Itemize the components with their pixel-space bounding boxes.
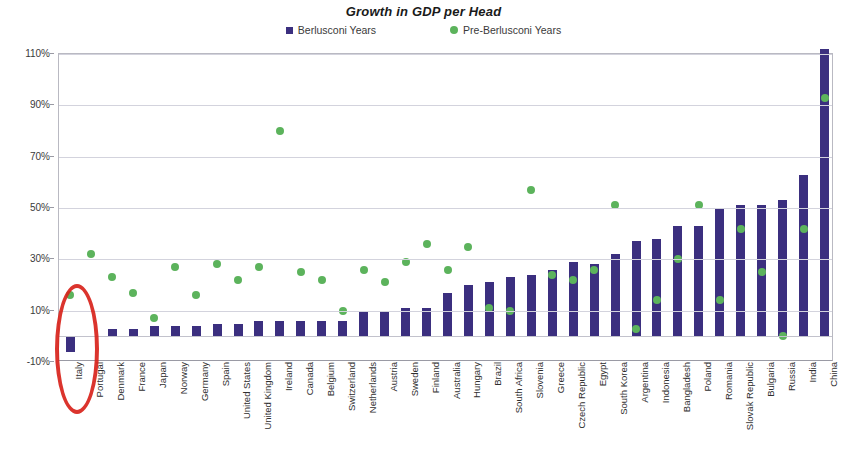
bar-sweden — [401, 308, 410, 336]
dot-austria — [381, 278, 389, 286]
y-axis-tick-label: 110% — [25, 48, 50, 59]
x-axis-label-bangladesh: Bangladesh — [681, 362, 692, 412]
x-axis-label-belgium: Belgium — [325, 362, 336, 396]
y-axis-tick-mark — [50, 104, 54, 105]
y-axis: -10%10%30%50%70%90%110% — [0, 53, 54, 361]
x-axis-label-indonesia: Indonesia — [660, 362, 671, 403]
x-axis-label-poland: Poland — [702, 362, 713, 392]
gridline — [59, 259, 832, 260]
x-axis-label-united-kingdom: United Kingdom — [262, 362, 273, 430]
y-axis-tick-label: 10% — [30, 304, 50, 315]
x-axis-label-norway: Norway — [178, 362, 189, 394]
x-axis-label-brazil: Brazil — [492, 362, 503, 386]
dot-egypt — [590, 266, 598, 274]
x-axis-label-greece: Greece — [555, 362, 566, 393]
x-axis-label-russia: Russia — [786, 362, 797, 391]
bar-austria — [380, 311, 389, 337]
legend-label-pre-berlusconi-years: Pre-Berlusconi Years — [463, 24, 561, 36]
legend-square-marker-icon — [286, 27, 293, 34]
y-axis-tick-label: 50% — [30, 202, 50, 213]
y-axis-tick-mark — [50, 361, 54, 362]
dot-argentina — [632, 325, 640, 333]
zero-baseline — [59, 336, 832, 337]
x-axis-label-argentina: Argentina — [639, 362, 650, 403]
dot-greece — [548, 271, 556, 279]
x-axis-label-germany: Germany — [199, 362, 210, 401]
bar-italy — [66, 336, 75, 351]
dot-hungary — [464, 243, 472, 251]
y-axis-tick-mark — [50, 156, 54, 157]
y-axis-tick-label: 30% — [30, 253, 50, 264]
gridline — [59, 311, 832, 312]
y-axis-tick-mark — [50, 207, 54, 208]
plot-area — [58, 53, 833, 361]
dot-netherlands — [360, 266, 368, 274]
bar-france — [129, 329, 138, 337]
x-axis-label-portugal: Portugal — [94, 362, 105, 397]
legend-item-pre-berlusconi-years: Pre-Berlusconi Years — [450, 24, 561, 36]
x-axis-label-united-states: United States — [241, 362, 252, 419]
y-axis-tick-mark — [50, 310, 54, 311]
x-axis-label-egypt: Egypt — [597, 362, 608, 386]
dot-united-states — [234, 276, 242, 284]
dot-germany — [192, 291, 200, 299]
dot-romania — [716, 296, 724, 304]
bar-ireland — [275, 321, 284, 336]
bar-india — [799, 175, 808, 337]
x-axis-label-romania: Romania — [723, 362, 734, 400]
bar-argentina — [632, 241, 641, 336]
x-axis-label-hungary: Hungary — [471, 362, 482, 398]
footer-text-fragment — [440, 452, 840, 468]
y-axis-tick-mark — [50, 258, 54, 259]
x-axis-label-france: France — [136, 362, 147, 392]
gridline — [59, 208, 832, 209]
bar-greece — [548, 270, 557, 337]
x-axis-label-japan: Japan — [157, 362, 168, 388]
bar-belgium — [317, 321, 326, 336]
gdp-growth-chart: Growth in GDP per Head Berlusconi Years … — [0, 0, 847, 470]
gridline — [59, 105, 832, 106]
bar-canada — [296, 321, 305, 336]
dot-portugal — [87, 250, 95, 258]
dot-finland — [423, 240, 431, 248]
x-axis-label-india: India — [807, 362, 818, 383]
dot-italy — [66, 291, 74, 299]
bar-slovenia — [527, 275, 536, 337]
x-axis-label-slovenia: Slovenia — [534, 362, 545, 398]
x-axis-label-china: China — [828, 362, 839, 387]
bar-egypt — [590, 264, 599, 336]
bar-united-states — [234, 324, 243, 337]
dot-bulgaria — [758, 268, 766, 276]
x-axis-label-south-korea: South Korea — [618, 362, 629, 415]
x-axis-label-czech-republic: Czech Republic — [576, 362, 587, 429]
chart-legend: Berlusconi Years Pre-Berlusconi Years — [0, 24, 847, 36]
bar-czech-republic — [569, 262, 578, 336]
x-axis-label-sweden: Sweden — [409, 362, 420, 396]
bar-spain — [213, 324, 222, 337]
x-axis-label-spain: Spain — [220, 362, 231, 386]
x-axis-label-slovak-republic: Slovak Republic — [744, 362, 755, 430]
legend-item-berlusconi-years: Berlusconi Years — [286, 24, 376, 36]
dot-australia — [444, 266, 452, 274]
bar-norway — [171, 326, 180, 336]
y-axis-tick-label: 70% — [30, 150, 50, 161]
dot-china — [821, 94, 829, 102]
bar-south-korea — [611, 254, 620, 336]
gridline — [59, 54, 832, 55]
legend-circle-marker-icon — [450, 26, 458, 34]
bar-switzerland — [338, 321, 347, 336]
x-axis-label-austria: Austria — [388, 362, 399, 392]
bar-finland — [422, 308, 431, 336]
dot-spain — [213, 260, 221, 268]
y-axis-tick-label: 90% — [30, 99, 50, 110]
bar-china — [820, 49, 829, 336]
x-axis-label-ireland: Ireland — [283, 362, 294, 391]
bar-australia — [443, 293, 452, 337]
bar-japan — [150, 326, 159, 336]
dot-norway — [171, 263, 179, 271]
dot-belgium — [318, 276, 326, 284]
bar-netherlands — [359, 311, 368, 337]
x-axis-labels: ItalyPortugalDenmarkFranceJapanNorwayGer… — [58, 362, 833, 462]
dot-denmark — [108, 273, 116, 281]
dot-ireland — [276, 127, 284, 135]
